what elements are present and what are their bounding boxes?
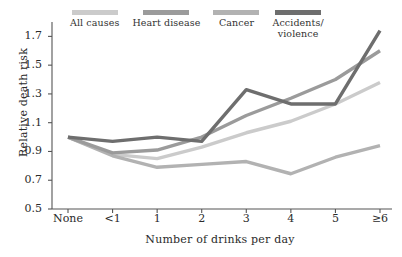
legend-label-heart-disease: Heart disease bbox=[132, 18, 200, 29]
legend-swatch-accidents-violence bbox=[275, 10, 321, 15]
series-line bbox=[68, 82, 380, 158]
y-tick-marks bbox=[48, 36, 52, 209]
y-axis-title: Relative death risk bbox=[17, 43, 30, 163]
x-tick-label: 3 bbox=[243, 212, 250, 225]
x-tick-label: 1 bbox=[154, 212, 161, 225]
series-lines bbox=[68, 31, 380, 174]
x-tick-label: ≥6 bbox=[372, 212, 388, 225]
legend-item-accidents-violence: Accidents/ violence bbox=[272, 10, 323, 39]
x-axis-title: Number of drinks per day bbox=[55, 233, 385, 246]
legend-swatch-heart-disease bbox=[143, 10, 189, 15]
chart-legend: All causes Heart disease Cancer Accident… bbox=[70, 10, 324, 39]
legend-label-cancer: Cancer bbox=[219, 18, 254, 29]
y-tick-label: 1.7 bbox=[14, 29, 42, 42]
relative-death-risk-line-chart: All causes Heart disease Cancer Accident… bbox=[0, 0, 402, 257]
x-tick-label: None bbox=[53, 212, 83, 225]
x-tick-label: 2 bbox=[198, 212, 205, 225]
x-tick-label: <1 bbox=[104, 212, 120, 225]
y-tick-label: 0.5 bbox=[14, 202, 42, 215]
legend-swatch-all-causes bbox=[72, 10, 118, 15]
x-tick-label: 5 bbox=[332, 212, 339, 225]
legend-item-cancer: Cancer bbox=[213, 10, 259, 29]
y-tick-label: 0.7 bbox=[14, 173, 42, 186]
legend-label-accidents-violence: Accidents/ violence bbox=[272, 18, 323, 39]
legend-item-all-causes: All causes bbox=[70, 10, 119, 29]
legend-swatch-cancer bbox=[213, 10, 259, 15]
legend-item-heart-disease: Heart disease bbox=[132, 10, 200, 29]
series-line bbox=[68, 51, 380, 153]
legend-label-all-causes: All causes bbox=[70, 18, 119, 29]
x-tick-label: 4 bbox=[287, 212, 294, 225]
